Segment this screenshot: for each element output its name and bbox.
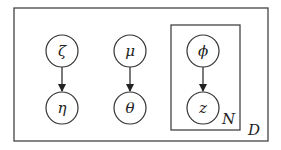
node-mu-label: μ (125, 42, 135, 60)
node-zeta: ζ (46, 35, 78, 67)
node-zeta-label: ζ (58, 42, 67, 60)
node-eta-label: η (58, 99, 67, 117)
node-z-label: z (198, 99, 207, 117)
plate-n-label: N (221, 110, 236, 128)
node-theta: θ (114, 92, 146, 124)
node-eta: η (46, 92, 78, 124)
node-z: z (187, 92, 219, 124)
node-mu: μ (114, 35, 146, 67)
plate-diagram: D N ζ η μ θ ϕ z (0, 0, 281, 150)
node-phi: ϕ (187, 35, 219, 67)
plate-d-label: D (247, 121, 260, 139)
node-phi-label: ϕ (198, 42, 208, 60)
node-theta-label: θ (125, 99, 134, 117)
